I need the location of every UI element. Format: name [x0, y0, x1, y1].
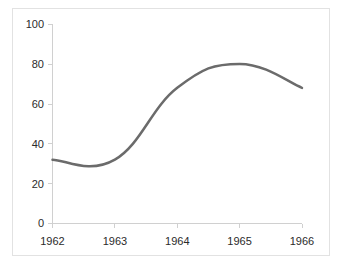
x-tick-marks	[53, 224, 303, 229]
y-tick-label-40: 40	[32, 138, 44, 150]
data-series-line	[53, 64, 303, 166]
x-tick-label-1964: 1964	[165, 235, 189, 247]
y-tick-label-80: 80	[32, 58, 44, 70]
y-tick-label-20: 20	[32, 178, 44, 190]
x-tick-label-1966: 1966	[290, 235, 314, 247]
line-chart: 100 80 60 40 20 0 1962 1963 1964 1965 19…	[0, 0, 347, 272]
y-tick-label-60: 60	[32, 98, 44, 110]
x-tick-label-1962: 1962	[40, 235, 64, 247]
y-tick-label-0: 0	[38, 217, 44, 229]
x-tick-label-1963: 1963	[103, 235, 127, 247]
y-tick-label-100: 100	[26, 18, 44, 30]
y-tick-marks	[48, 25, 53, 224]
x-tick-label-1965: 1965	[227, 235, 251, 247]
